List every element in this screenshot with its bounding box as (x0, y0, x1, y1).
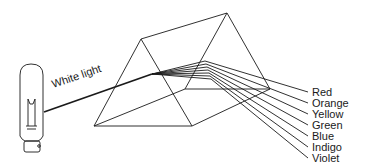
dispersed-rays (152, 61, 308, 158)
light-bulb-icon (20, 64, 43, 152)
color-label-violet: Violet (312, 153, 339, 164)
prism (94, 13, 270, 126)
